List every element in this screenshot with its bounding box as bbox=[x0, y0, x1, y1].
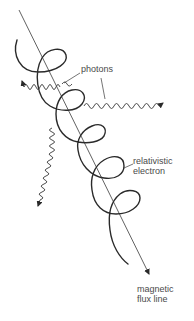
magnetic-flux-line bbox=[19, 10, 149, 274]
photon-right bbox=[84, 103, 163, 109]
photons-leader-left bbox=[64, 73, 80, 83]
photon-down bbox=[38, 128, 55, 206]
flux-label-line1: magnetic bbox=[137, 284, 174, 294]
photons-leader-right bbox=[101, 78, 105, 99]
flux-label-line2: flux line bbox=[137, 294, 168, 304]
photon-emission-wiggle bbox=[62, 82, 72, 86]
electron-label-line1: relativistic bbox=[133, 156, 173, 166]
photons-label: photons bbox=[81, 64, 113, 74]
electron-helix bbox=[16, 40, 140, 264]
electron-label-line2: electron bbox=[133, 166, 165, 176]
electron-leader bbox=[124, 164, 133, 168]
